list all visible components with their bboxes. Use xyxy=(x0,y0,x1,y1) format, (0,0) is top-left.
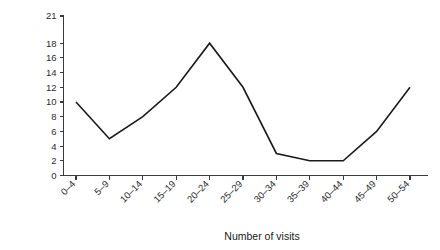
x-axis-tick-labels: 0–45–910–1415–1920–2425–2930–3435–3940–4… xyxy=(58,178,411,204)
x-axis-tick-label: 45–49 xyxy=(352,178,378,204)
x-axis-tick-label: 30–34 xyxy=(251,178,277,204)
x-axis-tick-label: 40–44 xyxy=(318,178,344,204)
y-axis-tick-label: 10 xyxy=(46,96,57,107)
y-axis-tick-label: 6 xyxy=(51,126,56,137)
y-axis-tick-labels: 02468101214161821 xyxy=(46,10,57,181)
y-axis-tick-label: 2 xyxy=(51,155,56,166)
y-axis-tick-label: 16 xyxy=(46,52,57,63)
x-axis-tick-label: 0–4 xyxy=(58,178,77,197)
chart-canvas: 02468101214161821 0–45–910–1415–1920–242… xyxy=(0,0,440,250)
x-axis-tick-label: 5–9 xyxy=(92,178,111,197)
y-axis-tick-label: 21 xyxy=(46,10,57,21)
x-axis-title: Number of visits xyxy=(224,230,299,242)
y-axis-tick-label: 18 xyxy=(46,38,57,49)
x-axis-tick-label: 10–14 xyxy=(118,178,144,204)
x-axis-tick-marks xyxy=(76,176,410,180)
y-axis-tick-label: 12 xyxy=(46,82,57,93)
y-axis-tick-marks xyxy=(60,16,64,176)
frequency-series-line xyxy=(76,43,410,161)
y-axis-tick-label: 14 xyxy=(46,67,57,78)
x-axis-tick-label: 35–39 xyxy=(285,178,311,204)
y-axis-tick-label: 4 xyxy=(51,141,56,152)
y-axis-tick-label: 0 xyxy=(51,170,56,181)
y-axis-tick-label: 8 xyxy=(51,111,56,122)
x-axis-tick-label: 20–24 xyxy=(185,178,211,204)
x-axis-tick-label: 15–19 xyxy=(151,178,177,204)
frequency-line-chart: 02468101214161821 0–45–910–1415–1920–242… xyxy=(0,0,440,250)
x-axis-tick-label: 50–54 xyxy=(385,178,411,204)
x-axis-tick-label: 25–29 xyxy=(218,178,244,204)
